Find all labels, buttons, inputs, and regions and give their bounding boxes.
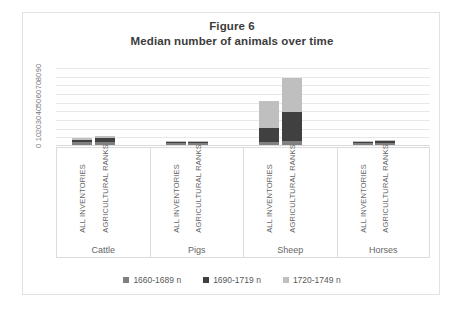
legend-item-0[interactable]: 1660-1689 n bbox=[123, 275, 181, 285]
y-axis-tick-0: 0 bbox=[35, 132, 43, 160]
group-name-pigs: Pigs bbox=[151, 245, 244, 255]
legend-label: 1660-1689 n bbox=[133, 275, 181, 285]
group-cell-cattle: ALL INVENTORIESAGRICULTURAL RANKSCattle bbox=[56, 147, 150, 257]
chart-legend: 1660-1689 n1690-1719 n1720-1749 n bbox=[23, 275, 441, 285]
subcategory-label-all-inventories: ALL INVENTORIES bbox=[78, 164, 87, 233]
bar-sheep-all-inventories[interactable] bbox=[259, 101, 279, 145]
bar-cattle-all-inventories[interactable] bbox=[72, 138, 92, 145]
gridline-60 bbox=[56, 94, 430, 95]
plot-wrapper: 9080706050403020100 ALL INVENTORIESAGRIC… bbox=[31, 65, 433, 270]
legend-label: 1690-1719 n bbox=[213, 275, 261, 285]
group-cell-pigs: ALL INVENTORIESAGRICULTURAL RANKSPigs bbox=[150, 147, 244, 257]
group-name-horses: Horses bbox=[338, 245, 430, 255]
subcategory-label-all-inventories: ALL INVENTORIES bbox=[265, 164, 274, 233]
legend-swatch-icon bbox=[123, 277, 129, 283]
subcategory-label-all-inventories: ALL INVENTORIES bbox=[359, 164, 368, 233]
gridline-50 bbox=[56, 103, 430, 104]
group-cell-horses: ALL INVENTORIESAGRICULTURAL RANKSHorses bbox=[337, 147, 431, 257]
legend-item-1[interactable]: 1690-1719 n bbox=[203, 275, 261, 285]
subcategory-label-agricultural-ranks: AGRICULTURAL RANKS bbox=[194, 144, 203, 233]
y-axis: 9080706050403020100 bbox=[31, 65, 55, 147]
group-name-sheep: Sheep bbox=[244, 245, 337, 255]
legend-swatch-icon bbox=[203, 277, 209, 283]
gridline-80 bbox=[56, 77, 430, 78]
category-label-band: ALL INVENTORIESAGRICULTURAL RANKSCattleA… bbox=[56, 147, 430, 257]
category-band-bottom-border bbox=[56, 257, 430, 258]
gridline-20 bbox=[56, 129, 430, 130]
subcategory-label-agricultural-ranks: AGRICULTURAL RANKS bbox=[101, 144, 110, 233]
bar-segment-1690-1719 bbox=[259, 128, 279, 142]
figure-frame: Figure 6 Median number of animals over t… bbox=[22, 12, 440, 295]
legend-item-2[interactable]: 1720-1749 n bbox=[283, 275, 341, 285]
figure-number: Figure 6 bbox=[23, 19, 441, 34]
group-cell-sheep: ALL INVENTORIESAGRICULTURAL RANKSSheep bbox=[243, 147, 337, 257]
subcategory-label-agricultural-ranks: AGRICULTURAL RANKS bbox=[288, 144, 297, 233]
gridline-70 bbox=[56, 85, 430, 86]
group-name-cattle: Cattle bbox=[57, 245, 150, 255]
gridline-30 bbox=[56, 120, 430, 121]
gridline-40 bbox=[56, 111, 430, 112]
subcategory-label-all-inventories: ALL INVENTORIES bbox=[172, 164, 181, 233]
x-axis-line bbox=[56, 145, 430, 146]
legend-swatch-icon bbox=[283, 277, 289, 283]
chart-title: Median number of animals over time bbox=[23, 34, 441, 49]
plot-area bbox=[56, 68, 430, 146]
chart-title-block: Figure 6 Median number of animals over t… bbox=[23, 19, 441, 49]
bar-segment-1690-1719 bbox=[282, 112, 302, 141]
bar-segment-1720-1749 bbox=[259, 101, 279, 128]
bar-sheep-agricultural-ranks[interactable] bbox=[282, 78, 302, 145]
bar-segment-1720-1749 bbox=[282, 78, 302, 112]
legend-label: 1720-1749 n bbox=[293, 275, 341, 285]
gridline-90 bbox=[56, 68, 430, 69]
subcategory-label-agricultural-ranks: AGRICULTURAL RANKS bbox=[381, 144, 390, 233]
